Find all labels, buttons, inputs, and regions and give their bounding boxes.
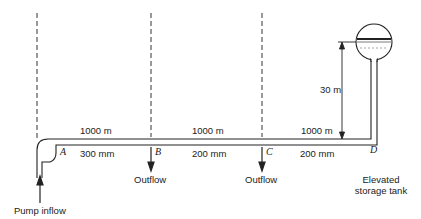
segment-bc-diameter: 200 mm xyxy=(192,149,226,159)
pipe-inner-wall xyxy=(42,58,377,178)
segment-bc-length: 1000 m xyxy=(192,126,224,136)
tank-label-line2: storage tank xyxy=(355,186,407,196)
outflow-arrow-b xyxy=(148,147,154,171)
node-label-c: C xyxy=(266,147,273,157)
pump-inflow-label: Pump inflow xyxy=(14,206,66,216)
outflow-arrow-c xyxy=(259,147,265,171)
pump-inflow-arrow xyxy=(37,176,43,203)
node-label-d: D xyxy=(370,145,377,155)
segment-ab-diameter: 300 mm xyxy=(80,149,114,159)
tank-label-line1: Elevated xyxy=(363,175,400,185)
section-dashed-lines xyxy=(37,13,262,138)
node-label-b: B xyxy=(155,147,161,157)
pipe xyxy=(37,58,377,178)
pipe-outer-wall xyxy=(37,58,371,178)
outflow-label-c: Outflow xyxy=(245,175,277,185)
segment-cd-diameter: 200 mm xyxy=(300,149,334,159)
segment-ab-length: 1000 m xyxy=(80,126,112,136)
node-label-a: A xyxy=(60,147,66,157)
elevation-label: 30 m xyxy=(320,85,341,95)
segment-cd-length: 1000 m xyxy=(301,126,333,136)
arrow-down-icon xyxy=(340,132,345,139)
outflow-label-b: Outflow xyxy=(134,175,166,185)
arrow-up-icon xyxy=(340,42,345,49)
storage-tank xyxy=(356,24,392,62)
